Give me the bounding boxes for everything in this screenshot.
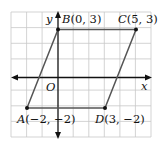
point-d-label: D(3, −2) — [94, 112, 145, 126]
coordinate-plane: y x O B(0, 3) C(5, 3) A(−2, −2) D(3, −2) — [0, 0, 163, 146]
point-a — [25, 106, 29, 110]
point-d — [103, 106, 107, 110]
x-axis-label: x — [141, 79, 148, 93]
y-axis-label: y — [45, 12, 53, 26]
point-b — [56, 28, 60, 32]
x-axis — [11, 75, 152, 81]
point-b-label: B(0, 3) — [61, 12, 101, 26]
point-c-label: C(5, 3) — [118, 12, 158, 26]
point-c — [134, 28, 138, 32]
point-a-label: A(−2, −2) — [16, 112, 76, 126]
x-axis-left-arrow-icon — [11, 75, 18, 81]
y-axis-down-arrow-icon — [55, 132, 61, 139]
origin-label: O — [46, 80, 56, 94]
